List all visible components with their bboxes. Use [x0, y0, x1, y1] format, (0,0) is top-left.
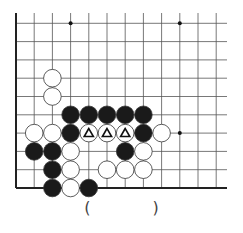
close-paren: )	[153, 198, 159, 217]
black-stone	[135, 106, 153, 124]
white-stone	[153, 124, 171, 142]
white-stone	[44, 88, 62, 106]
star-point	[178, 21, 182, 25]
black-stone	[44, 179, 62, 197]
white-stone	[44, 69, 62, 87]
white-stone	[62, 143, 80, 161]
go-board	[0, 0, 243, 200]
white-stone	[62, 161, 80, 179]
star-point	[178, 131, 182, 135]
black-stone	[62, 124, 80, 142]
stones	[25, 69, 170, 196]
black-stone	[80, 106, 98, 124]
open-paren: (	[84, 198, 90, 217]
white-stone	[44, 124, 62, 142]
white-stone	[116, 161, 134, 179]
black-stone	[116, 106, 134, 124]
black-stone	[116, 143, 134, 161]
white-stone	[98, 161, 116, 179]
white-stone	[62, 179, 80, 197]
white-stone	[25, 124, 43, 142]
answer-blank: ( )	[0, 198, 243, 217]
black-stone	[98, 106, 116, 124]
black-stone	[62, 106, 80, 124]
star-point	[69, 21, 73, 25]
black-stone	[44, 143, 62, 161]
black-stone	[25, 143, 43, 161]
black-stone	[44, 161, 62, 179]
black-stone	[80, 179, 98, 197]
black-stone	[135, 124, 153, 142]
white-stone	[135, 143, 153, 161]
white-stone	[135, 161, 153, 179]
